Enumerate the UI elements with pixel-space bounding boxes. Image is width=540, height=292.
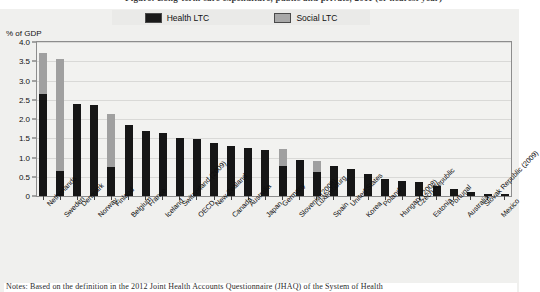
bar-column[interactable] [347,42,355,196]
y-tick-label: 3.5 [19,57,30,66]
stacked-bar[interactable] [56,59,64,196]
stacked-bar[interactable] [347,169,355,196]
y-tick-label: 4.0 [19,38,30,47]
bar-column[interactable] [313,42,321,196]
stacked-bar[interactable] [39,53,47,196]
chart-legend: Health LTC Social LTC [112,10,370,25]
bar-segment-social [56,59,64,171]
y-tick-mark [32,61,36,62]
y-tick-label: 1.5 [19,134,30,143]
y-tick-mark [32,176,36,177]
legend-swatch-social-icon [274,13,291,23]
bar-column[interactable] [364,42,372,196]
y-tick-mark [32,99,36,100]
bar-column[interactable] [330,42,338,196]
legend-label-social: Social LTC [296,13,337,23]
bar-column[interactable] [142,42,150,196]
bar-column[interactable] [501,42,509,196]
figure-title-strip: Figure: Long-term care expenditure, publ… [0,0,519,9]
y-tick-label: 3.0 [19,76,30,85]
bar-column[interactable] [279,42,287,196]
stacked-bar[interactable] [176,138,184,196]
y-tick-label: 0.5 [19,172,30,181]
x-axis-labels: NetherlandsSwedenDenmarkNorwayFinlandBel… [37,200,511,286]
bar-segment-health [244,148,252,196]
figure-title: Figure: Long-term care expenditure, publ… [125,0,442,3]
bar-column[interactable] [484,42,492,196]
bar-column[interactable] [125,42,133,196]
bar-segment-health [39,94,47,196]
y-tick-mark [32,196,36,197]
y-tick-mark [32,138,36,139]
stacked-bar[interactable] [244,148,252,196]
bar-column[interactable] [176,42,184,196]
bar-column[interactable] [296,42,304,196]
x-axis-label: Spain [331,200,350,219]
bar-segment-health [142,131,150,196]
bar-segment-health [176,138,184,196]
legend-swatch-health-icon [145,13,162,23]
bar-segment-social [107,114,115,167]
bar-segment-social [39,53,47,94]
figure-note-strip: Notes: Based on the definition in the 20… [4,283,517,292]
bar-column[interactable] [244,42,252,196]
bar-segment-social [279,149,287,166]
y-tick-label: 2.5 [19,95,30,104]
y-axis-ticks: 00.51.01.52.02.53.03.54.0 [0,41,36,197]
legend-entry-health: Health LTC [145,13,209,23]
y-tick-label: 0 [26,192,30,201]
figure-note: Notes: Based on the definition in the 20… [6,283,383,291]
stacked-bar[interactable] [107,114,115,196]
y-tick-mark [32,80,36,81]
bar-column[interactable] [415,42,423,196]
bar-column[interactable] [107,42,115,196]
bar-column[interactable] [227,42,235,196]
bar-segment-social [313,161,321,171]
bar-column[interactable] [56,42,64,196]
bar-column[interactable] [193,42,201,196]
y-tick-mark [32,42,36,43]
bar-column[interactable] [73,42,81,196]
bar-column[interactable] [398,42,406,196]
y-tick-mark [32,119,36,120]
legend-entry-social: Social LTC [274,13,337,23]
y-tick-mark [32,157,36,158]
y-tick-label: 2.0 [19,115,30,124]
bar-column[interactable] [433,42,441,196]
stacked-bar[interactable] [279,149,287,196]
bar-column[interactable] [90,42,98,196]
y-tick-label: 1.0 [19,153,30,162]
x-axis-label: Mexico [499,197,521,220]
bar-segment-health [347,169,355,196]
bar-column[interactable] [39,42,47,196]
bar-column[interactable] [159,42,167,196]
bar-series-container [37,42,511,196]
bar-segment-health [279,166,287,196]
bar-column[interactable] [261,42,269,196]
legend-label-health: Health LTC [167,13,209,23]
stacked-bar[interactable] [142,131,150,196]
bar-segment-health [107,167,115,196]
bar-column[interactable] [381,42,389,196]
bar-column[interactable] [467,42,475,196]
